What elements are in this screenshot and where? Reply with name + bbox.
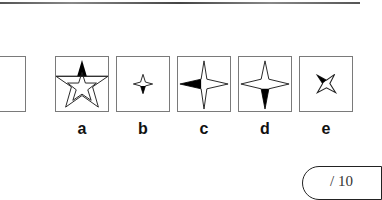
option-b-box[interactable]	[116, 56, 170, 112]
score-text: / 10	[330, 173, 353, 190]
option-d-label: d	[238, 120, 292, 138]
option-e-label: e	[299, 120, 353, 138]
option-b-label: b	[116, 120, 170, 138]
option-a-label: a	[55, 120, 109, 138]
four-point-star-bottom-filled-icon	[239, 57, 291, 111]
star-with-spike-icon	[56, 57, 108, 111]
four-point-star-left-filled-icon	[178, 57, 230, 111]
small-four-point-star-icon	[117, 57, 169, 111]
option-c-box[interactable]	[177, 56, 231, 112]
option-a-box[interactable]	[55, 56, 109, 112]
option-e-box[interactable]	[299, 56, 353, 112]
question-box	[0, 56, 26, 112]
rotated-small-star-icon	[300, 57, 352, 111]
top-divider	[0, 2, 360, 4]
option-c-label: c	[177, 120, 231, 138]
option-d-box[interactable]	[238, 56, 292, 112]
